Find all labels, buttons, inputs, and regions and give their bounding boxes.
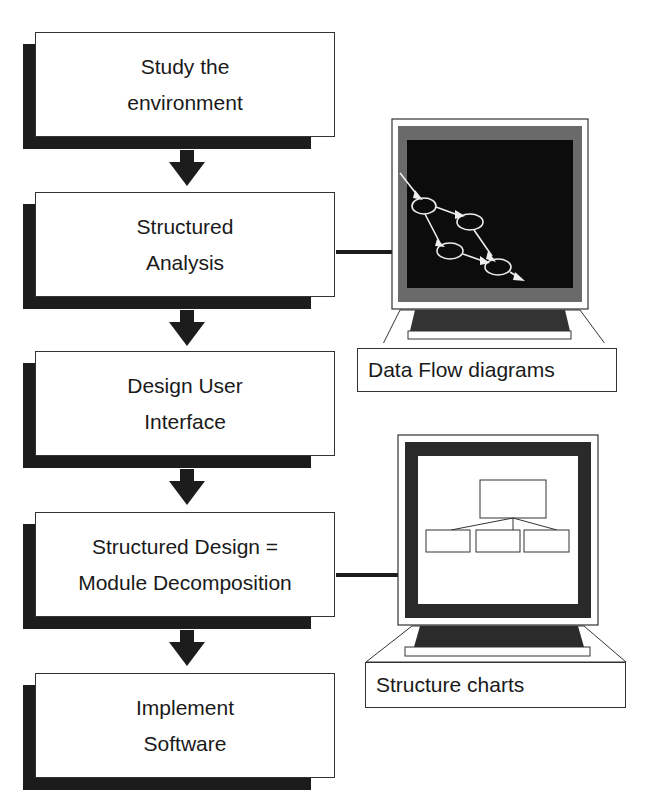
step-box: Structured Design = Module Decomposition	[35, 512, 335, 617]
step-label: Software	[144, 726, 227, 762]
caption-data-flow-diagrams: Data Flow diagrams	[357, 348, 617, 392]
step-structured-design: Structured Design = Module Decomposition	[35, 512, 335, 617]
step-label: Design User	[127, 368, 243, 404]
monitor-data-flow-icon	[355, 118, 620, 343]
caption-structure-charts: Structure charts	[365, 662, 626, 708]
step-design-user-interface: Design User Interface	[35, 351, 335, 456]
step-label: Implement	[136, 690, 234, 726]
step-box: Implement Software	[35, 673, 335, 778]
step-box: Structured Analysis	[35, 192, 335, 297]
step-box: Design User Interface	[35, 351, 335, 456]
step-structured-analysis: Structured Analysis	[35, 192, 335, 297]
step-label: Interface	[144, 404, 226, 440]
step-label: Analysis	[146, 245, 224, 281]
step-label: Module Decomposition	[78, 565, 292, 601]
step-study-environment: Study the environment	[35, 32, 335, 137]
step-label: Study the	[141, 49, 230, 85]
step-implement-software: Implement Software	[35, 673, 335, 778]
step-label: Structured	[137, 209, 234, 245]
step-box: Study the environment	[35, 32, 335, 137]
monitor-structure-chart-icon	[360, 434, 630, 664]
step-label: environment	[127, 85, 243, 121]
step-label: Structured Design =	[92, 529, 278, 565]
